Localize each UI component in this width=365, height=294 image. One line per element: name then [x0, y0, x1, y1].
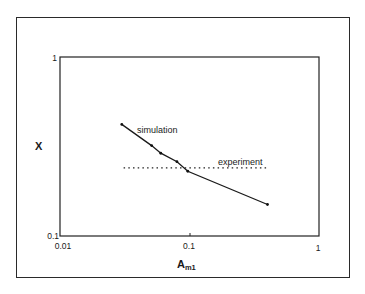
plot-area: [60, 57, 319, 236]
simulation-data-point: [159, 152, 162, 155]
y-tick-label-0.1: 0.1: [47, 231, 59, 241]
simulation-label: simulation: [137, 125, 178, 135]
simulation-data-point: [176, 160, 179, 163]
simulation-data-point: [150, 144, 153, 147]
x-tick-label-0.1: 0.1: [183, 241, 195, 251]
simulation-data-point: [120, 123, 123, 126]
experiment-label: experiment: [218, 157, 263, 167]
x-axis-label: Am1: [177, 258, 196, 272]
x-tick-label-0.01: 0.01: [55, 241, 72, 251]
chart: simulation experiment 1 0.1 0.01 0.1 1 X…: [0, 0, 365, 294]
y-tick-label-1: 1: [52, 53, 57, 63]
simulation-data-point: [186, 170, 189, 173]
x-tick-label-1: 1: [316, 243, 321, 253]
y-axis-label: X: [35, 140, 43, 152]
simulation-data-point: [266, 203, 269, 206]
